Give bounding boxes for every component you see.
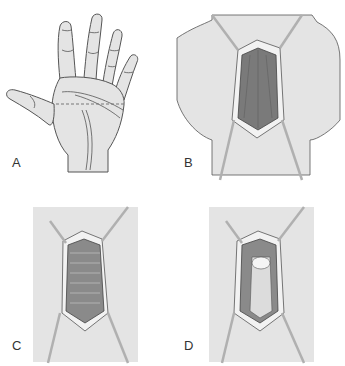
panel-a: A xyxy=(0,0,172,183)
hand-illustration xyxy=(0,0,172,183)
panel-label-d: D xyxy=(184,338,193,353)
panel-label-c: C xyxy=(12,338,21,353)
panel-label-b: B xyxy=(184,155,193,170)
panel-b: B xyxy=(172,0,345,183)
panel-label-a: A xyxy=(12,155,21,170)
exposure-transverse-illustration xyxy=(0,183,172,366)
panel-c: C xyxy=(0,183,172,366)
exposure-longitudinal-illustration xyxy=(172,0,345,183)
panel-d: D xyxy=(172,183,345,366)
exposure-elevated-illustration xyxy=(172,183,345,366)
